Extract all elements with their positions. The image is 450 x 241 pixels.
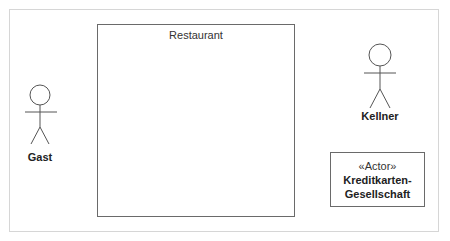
stick-figure-icon bbox=[360, 43, 400, 109]
stick-figure-icon bbox=[22, 83, 62, 145]
system-boundary-restaurant[interactable]: Restaurant bbox=[97, 24, 295, 217]
actor-gast-label: Gast bbox=[24, 151, 56, 163]
actor-name-line2: Gesellschaft bbox=[331, 187, 424, 201]
actor-name-line1: Kreditkarten- bbox=[331, 173, 424, 187]
system-title: Restaurant bbox=[98, 29, 294, 41]
actor-kellner[interactable] bbox=[360, 43, 400, 109]
actor-stereotype: «Actor» bbox=[331, 159, 424, 173]
actor-gast[interactable] bbox=[22, 83, 62, 145]
actor-kellner-label: Kellner bbox=[356, 110, 404, 122]
actor-kreditkarten-gesellschaft[interactable]: «Actor» Kreditkarten- Gesellschaft bbox=[330, 152, 425, 207]
